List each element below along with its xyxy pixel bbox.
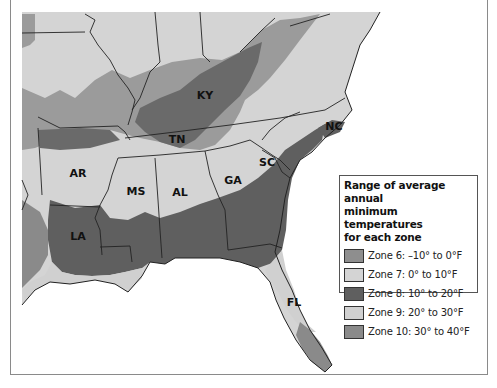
legend-title-line2: minimum temperatures bbox=[344, 205, 473, 231]
zone7-swatch bbox=[344, 268, 364, 282]
zone10-swatch bbox=[344, 325, 364, 339]
zone-legend: Range of average annual minimum temperat… bbox=[339, 175, 478, 293]
state-label-nc: NC bbox=[325, 120, 342, 133]
legend-label-zone8: Zone 8: 10° to 20°F bbox=[368, 288, 463, 299]
legend-label-zone7: Zone 7: 0° to 10°F bbox=[368, 269, 457, 280]
zone9-swatch bbox=[344, 306, 364, 320]
zone6-swatch bbox=[344, 249, 364, 263]
legend-label-zone6: Zone 6: –10° to 0°F bbox=[368, 250, 462, 261]
legend-row-zone7: Zone 7: 0° to 10°F bbox=[344, 267, 473, 282]
legend-row-zone10: Zone 10: 30° to 40°F bbox=[344, 324, 473, 339]
state-label-ar: AR bbox=[70, 167, 88, 180]
state-label-la: LA bbox=[70, 230, 86, 243]
legend-title-line3: for each zone bbox=[344, 231, 473, 244]
legend-title-line1: Range of average annual bbox=[344, 179, 473, 205]
state-label-ky: KY bbox=[197, 89, 215, 102]
legend-row-zone6: Zone 6: –10° to 0°F bbox=[344, 248, 473, 263]
state-label-ga: GA bbox=[224, 174, 242, 187]
state-label-sc: SC bbox=[259, 156, 275, 169]
legend-label-zone9: Zone 9: 20° to 30°F bbox=[368, 307, 463, 318]
state-label-al: AL bbox=[172, 186, 188, 199]
state-label-fl: FL bbox=[287, 296, 302, 309]
legend-row-zone8: Zone 8: 10° to 20°F bbox=[344, 286, 473, 301]
zone8-swatch bbox=[344, 287, 364, 301]
state-label-tn: TN bbox=[169, 133, 186, 146]
state-label-ms: MS bbox=[127, 185, 146, 198]
legend-row-zone9: Zone 9: 20° to 30°F bbox=[344, 305, 473, 320]
legend-label-zone10: Zone 10: 30° to 40°F bbox=[368, 326, 470, 337]
